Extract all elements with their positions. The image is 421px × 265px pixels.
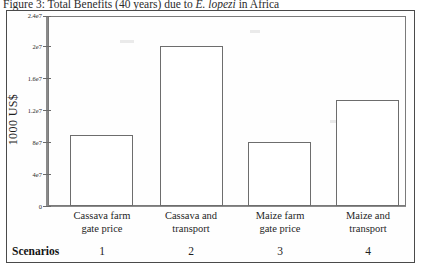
x-label-line-1: Maize farm [234,210,326,223]
scenarios-row: Scenarios 1 2 3 4 [6,243,415,261]
bar-scenario-4[interactable] [336,100,399,206]
bar-series [48,16,406,206]
x-label-line-2: transport [145,223,237,236]
x-label-scenario-3: Maize farm gate price [234,210,326,235]
scenario-number-3: 3 [234,243,326,259]
x-label-line-2: gate price [234,223,326,236]
y-tick-label: 4e7 [16,171,42,178]
y-tick-label: 2.4e7 [16,12,42,19]
y-tick-label: 1.6e7 [16,75,42,82]
scenario-number-4: 4 [322,243,414,259]
x-label-line-1: Maize and [322,210,414,223]
x-label-line-1: Cassava and [145,210,237,223]
bar-scenario-3[interactable] [248,142,311,206]
x-label-scenario-2: Cassava and transport [145,210,237,235]
x-label-line-2: gate price [56,223,148,236]
x-label-scenario-1: Cassava farm gate price [56,210,148,235]
y-axis-title: 1000 US$ [6,85,21,155]
y-tick-label: 0 [16,203,42,210]
y-tick-label: 2e7 [16,43,42,50]
scenarios-label: Scenarios [12,243,59,259]
scenario-number-1: 1 [56,243,148,259]
figure-root: Figure 3: Total Benefits (40 years) due … [0,0,421,265]
bar-scenario-1[interactable] [70,135,133,206]
x-label-line-2: transport [322,223,414,236]
x-axis-category-labels: Cassava farm gate price Cassava and tran… [48,210,406,240]
x-label-scenario-4: Maize and transport [322,210,414,235]
bar-scenario-2[interactable] [160,46,223,206]
x-label-line-1: Cassava farm [56,210,148,223]
scenario-number-2: 2 [145,243,237,259]
y-tick-mark [43,206,51,207]
